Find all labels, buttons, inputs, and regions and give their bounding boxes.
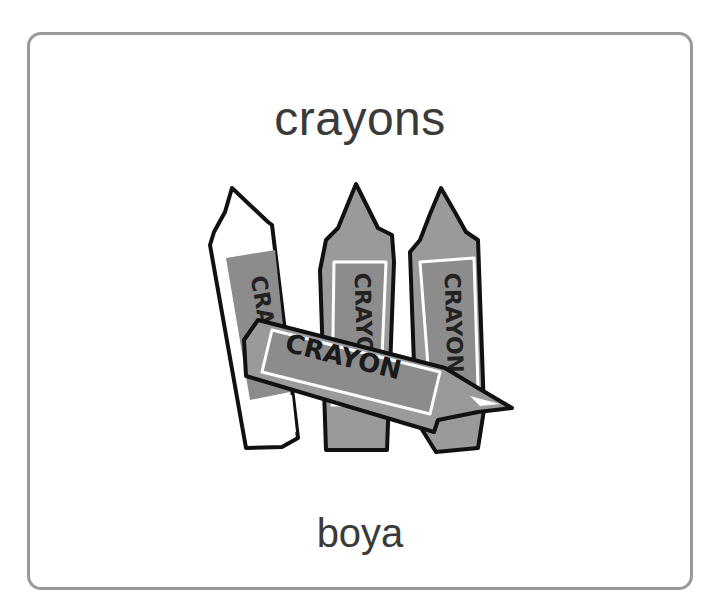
card-title: crayons (30, 91, 690, 147)
card-translation: boya (30, 509, 690, 557)
vocabulary-card[interactable]: crayons boya (27, 32, 693, 590)
